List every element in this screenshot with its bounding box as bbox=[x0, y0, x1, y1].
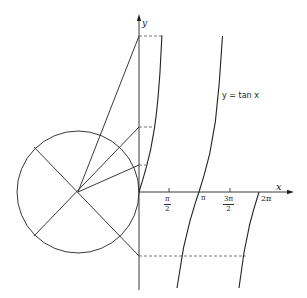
tick-numerator: π bbox=[164, 196, 171, 205]
tick-label-pi: π bbox=[201, 195, 206, 202]
x-axis-arrow-icon bbox=[287, 190, 294, 194]
tan-curve-branch-1 bbox=[139, 36, 162, 193]
tick-label-two-pi: 2π bbox=[261, 195, 271, 203]
tick-label-pi-half: π 2 bbox=[164, 196, 171, 213]
tan-curve-branch-2 bbox=[177, 36, 223, 288]
diagonal-line-1 bbox=[34, 147, 139, 256]
y-axis-label: y bbox=[142, 19, 147, 28]
tick-denominator: 2 bbox=[164, 205, 171, 213]
x-axis-label: x bbox=[276, 182, 282, 192]
y-axis-arrow-icon bbox=[137, 14, 141, 21]
tangent-construction-diagram bbox=[0, 0, 307, 298]
curve-label: y = tan x bbox=[222, 92, 259, 100]
tick-denominator: 2 bbox=[223, 205, 234, 213]
tick-numerator: 3π bbox=[223, 196, 234, 205]
tick-label-three-pi-half: 3π 2 bbox=[223, 196, 234, 213]
tan-curve-branch-3 bbox=[239, 192, 259, 288]
diagonal-line-2 bbox=[34, 127, 139, 236]
